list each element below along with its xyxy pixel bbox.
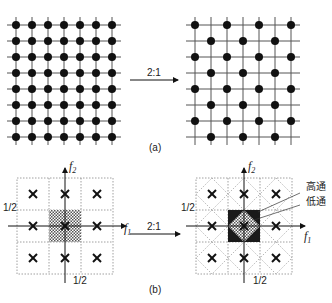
sample-point	[60, 21, 68, 29]
sample-point	[255, 21, 263, 29]
sample-point	[12, 85, 20, 93]
tick-x-right: 1/2	[253, 276, 267, 286]
sample-point	[271, 101, 279, 109]
tick-y-left: 1/2	[3, 203, 17, 213]
sample-point	[108, 37, 116, 45]
f2-label-right: f2	[248, 160, 255, 175]
sample-point	[44, 53, 52, 61]
sample-point	[108, 69, 116, 77]
sample-point	[28, 85, 36, 93]
sample-point	[44, 21, 52, 29]
sample-point	[76, 133, 84, 141]
sample-point	[108, 117, 116, 125]
sample-point	[92, 53, 100, 61]
diagram-canvas	[0, 0, 332, 303]
sample-point	[44, 101, 52, 109]
sample-point	[108, 85, 116, 93]
sample-point	[28, 69, 36, 77]
sample-point	[60, 117, 68, 125]
sample-point	[191, 85, 199, 93]
sample-point	[44, 85, 52, 93]
sample-point	[287, 117, 295, 125]
leader-low	[254, 205, 300, 220]
f1-label-left: f1	[124, 222, 131, 237]
sample-point	[255, 53, 263, 61]
sample-point	[92, 117, 100, 125]
sample-point	[60, 69, 68, 77]
tick-x-left: 1/2	[73, 276, 87, 286]
sample-point	[60, 53, 68, 61]
sample-point	[92, 85, 100, 93]
sample-point	[239, 133, 247, 141]
sample-point	[108, 53, 116, 61]
sample-point	[12, 133, 20, 141]
sample-point	[44, 117, 52, 125]
sample-point	[255, 85, 263, 93]
sample-point	[60, 85, 68, 93]
sample-point	[191, 53, 199, 61]
sample-point	[191, 117, 199, 125]
sample-point	[28, 53, 36, 61]
sample-point	[28, 101, 36, 109]
quincunx-lattice-grid	[186, 17, 300, 145]
sample-point	[12, 53, 20, 61]
arrow-label-a: 2:1	[147, 68, 161, 78]
sample-point	[28, 117, 36, 125]
sample-point	[92, 133, 100, 141]
sample-point	[76, 117, 84, 125]
sample-point	[76, 53, 84, 61]
caption-a: (a)	[149, 143, 161, 153]
sample-point	[207, 133, 215, 141]
sample-point	[287, 85, 295, 93]
sample-point	[239, 101, 247, 109]
sample-point	[271, 133, 279, 141]
sample-point	[287, 53, 295, 61]
sample-point	[28, 133, 36, 141]
sample-point	[191, 21, 199, 29]
sample-point	[76, 101, 84, 109]
f2-label-left: f2	[69, 160, 76, 175]
legend-highpass: 高通	[306, 182, 326, 192]
sample-point	[28, 37, 36, 45]
sample-point	[239, 69, 247, 77]
arrow-label-b: 2:1	[147, 222, 161, 232]
sample-point	[92, 37, 100, 45]
sample-point	[60, 133, 68, 141]
sample-point	[207, 69, 215, 77]
spectrum-before	[8, 168, 126, 283]
sample-point	[12, 101, 20, 109]
sample-point	[271, 69, 279, 77]
sample-point	[76, 85, 84, 93]
sample-point	[12, 69, 20, 77]
caption-b: (b)	[149, 285, 161, 295]
sample-point	[44, 69, 52, 77]
sample-point	[76, 69, 84, 77]
sample-point	[223, 85, 231, 93]
sample-point	[271, 37, 279, 45]
sample-point	[223, 117, 231, 125]
sample-point	[223, 53, 231, 61]
legend-lowpass: 低通	[306, 197, 326, 207]
sample-point	[44, 37, 52, 45]
sample-point	[12, 117, 20, 125]
sample-point	[28, 21, 36, 29]
sample-point	[60, 101, 68, 109]
sample-point	[207, 37, 215, 45]
sample-point	[12, 37, 20, 45]
sample-point	[287, 21, 295, 29]
sample-point	[76, 21, 84, 29]
sample-point	[108, 101, 116, 109]
sample-point	[92, 101, 100, 109]
sample-point	[60, 37, 68, 45]
sample-point	[76, 37, 84, 45]
sample-point	[92, 21, 100, 29]
sample-point	[92, 69, 100, 77]
spectrum-after	[186, 168, 305, 283]
sample-point	[223, 21, 231, 29]
sample-point	[207, 101, 215, 109]
sample-point	[108, 21, 116, 29]
sample-point	[44, 133, 52, 141]
sample-point	[239, 37, 247, 45]
full-lattice-grid	[7, 17, 121, 145]
sample-point	[108, 133, 116, 141]
